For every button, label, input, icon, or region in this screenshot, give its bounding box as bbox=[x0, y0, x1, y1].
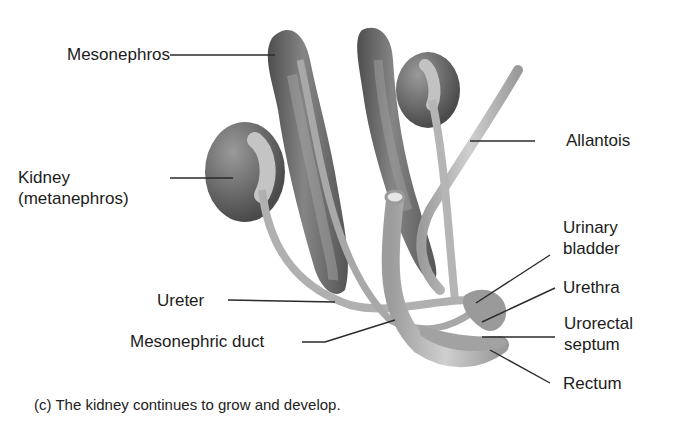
label-kidney: Kidney bbox=[18, 168, 70, 188]
label-rectum: Rectum bbox=[563, 374, 622, 394]
label-mesonephros: Mesonephros bbox=[67, 45, 170, 65]
urinary-bladder bbox=[463, 290, 506, 331]
label-allantois: Allantois bbox=[566, 131, 630, 151]
label-urorectal: Urorectal bbox=[564, 314, 633, 334]
label-bladder: bladder bbox=[563, 239, 620, 259]
figure-caption: (c) The kidney continues to grow and dev… bbox=[34, 396, 341, 413]
label-ureter: Ureter bbox=[157, 291, 204, 311]
label-urethra: Urethra bbox=[563, 278, 620, 298]
label-septum: septum bbox=[564, 335, 620, 355]
label-mesonephric-duct: Mesonephric duct bbox=[130, 332, 264, 352]
label-kidney-metanephros: (metanephros) bbox=[18, 189, 129, 209]
label-urinary: Urinary bbox=[563, 218, 618, 238]
